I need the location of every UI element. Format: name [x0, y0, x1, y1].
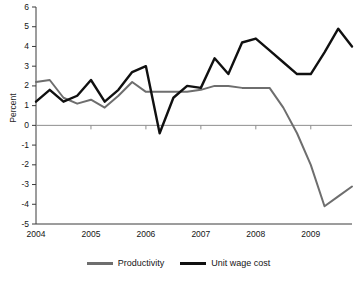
y-tick-label: 1	[9, 101, 29, 110]
productivity-unit-wage-cost-chart: Percent 6543210-1-2-3-4-5 20042005200620…	[0, 0, 357, 282]
x-tick-label: 2006	[126, 230, 166, 239]
x-tick-label: 2005	[71, 230, 111, 239]
y-tick-label: 5	[9, 22, 29, 31]
axis-group	[32, 7, 352, 224]
chart-legend: ProductivityUnit wage cost	[0, 258, 357, 268]
plot-area: Percent 6543210-1-2-3-4-5 20042005200620…	[0, 0, 357, 255]
legend-item[interactable]: Productivity	[87, 258, 165, 268]
x-tick-label: 2008	[236, 230, 276, 239]
y-tick-label: 2	[9, 81, 29, 90]
y-tick-label: -3	[9, 180, 29, 189]
y-tick-label: 3	[9, 62, 29, 71]
x-tick-label: 2009	[291, 230, 331, 239]
legend-label: Productivity	[118, 258, 165, 268]
legend-label: Unit wage cost	[211, 258, 270, 268]
y-tick-label: -5	[9, 220, 29, 229]
x-tick-label: 2004	[16, 230, 56, 239]
legend-color-swatch	[180, 262, 206, 265]
legend-item[interactable]: Unit wage cost	[180, 258, 270, 268]
series-line-productivity	[36, 80, 352, 206]
y-tick-label: -4	[9, 200, 29, 209]
y-tick-label: 4	[9, 42, 29, 51]
series-group	[36, 29, 352, 207]
y-tick-label: -2	[9, 160, 29, 169]
y-tick-label: 0	[9, 121, 29, 130]
y-tick-label: 6	[9, 3, 29, 12]
series-line-unit-wage-cost	[36, 29, 352, 134]
y-tick-label: -1	[9, 141, 29, 150]
x-tick-label: 2007	[181, 230, 221, 239]
legend-color-swatch	[87, 262, 113, 265]
plot-svg	[0, 0, 357, 255]
